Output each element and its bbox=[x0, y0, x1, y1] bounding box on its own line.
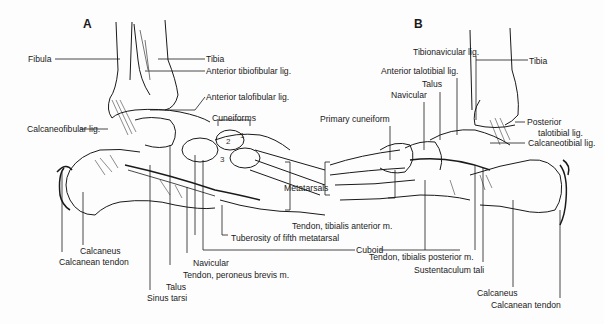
foot-illustration bbox=[0, 0, 604, 324]
cuneiform-number-1: 1 bbox=[240, 131, 244, 140]
label-tibia-b: Tibia bbox=[529, 56, 547, 66]
label-cuneiforms: Cuneiforms bbox=[212, 113, 256, 123]
label-calcanean-tendon-a: Calcanean tendon bbox=[59, 257, 129, 267]
label-calcaneus-b: Calcaneus bbox=[477, 288, 518, 298]
panel-label-a: A bbox=[83, 17, 92, 31]
label-navicular-b: Navicular bbox=[391, 90, 427, 100]
label-tibia-a: Tibia bbox=[206, 54, 224, 64]
label-metatarsals: Metatarsals bbox=[284, 183, 328, 193]
label-posterior-talotibial-1: Posterior bbox=[527, 117, 561, 127]
label-calcanean-tendon-b: Calcanean tendon bbox=[491, 300, 561, 310]
label-tibionavicular-lig: Tibionavicular lig. bbox=[413, 47, 479, 57]
label-sustentaculum-tali: Sustentaculum tali bbox=[414, 265, 484, 275]
label-tendon-tibialis-anterior: Tendon, tibialis anterior m. bbox=[292, 221, 392, 231]
label-sinus-tarsi: Sinus tarsi bbox=[147, 293, 187, 303]
label-anterior-tibiofibular-lig: Anterior tibiofibular lig. bbox=[206, 66, 291, 76]
label-calcaneotibial-lig: Calcaneotibial lig. bbox=[528, 138, 595, 148]
label-talus-a: Talus bbox=[166, 282, 186, 292]
label-calcaneofibular-lig: Calcaneofibular lig. bbox=[27, 124, 100, 134]
label-tendon-peroneus-brevis: Tendon, peroneus brevis m. bbox=[183, 270, 289, 280]
label-primary-cuneiform: Primary cuneiform bbox=[320, 114, 390, 124]
label-tuberosity-fifth-metatarsal: Tuberosity of fifth metatarsal bbox=[231, 233, 339, 243]
anatomy-figure: A B Fibula Tibia Anterior tibiofibular l… bbox=[0, 0, 604, 324]
label-navicular-a: Navicular bbox=[193, 258, 229, 268]
label-posterior-talotibial-2: talotibial lig. bbox=[538, 128, 583, 138]
label-anterior-talofibular-lig: Anterior talofibular lig. bbox=[206, 92, 289, 102]
panel-label-b: B bbox=[414, 17, 423, 31]
label-anterior-talotibial-lig: Anterior talotibial lig. bbox=[381, 66, 458, 76]
label-calcaneus-a: Calcaneus bbox=[80, 246, 121, 256]
label-talus-b: Talus bbox=[422, 79, 442, 89]
cuneiform-number-2: 2 bbox=[226, 137, 230, 146]
label-fibula: Fibula bbox=[28, 54, 51, 64]
cuneiform-number-3: 3 bbox=[220, 155, 224, 164]
label-tendon-tibialis-posterior: Tendon, tibialis posterior m. bbox=[369, 252, 474, 262]
